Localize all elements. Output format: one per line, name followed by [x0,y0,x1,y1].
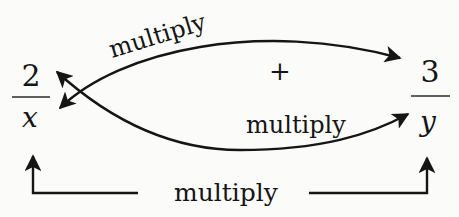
plus-operator: + [269,56,291,86]
bottom-connector-label: multiply [174,178,279,207]
left-elbow-arrow [33,156,138,193]
lower-curve-arrow [57,72,408,150]
lower-curve-label: multiply [246,111,346,139]
right-elbow-arrow [309,158,427,193]
left-denominator: x [22,101,38,134]
left-numerator: 2 [21,58,40,93]
right-denominator: y [418,105,437,138]
cross-multiply-diagram: 2 x + 3 y multiply multiply multiply [0,0,459,217]
right-numerator: 3 [420,54,439,89]
right-fraction: 3 y [411,54,450,138]
left-fraction: 2 x [12,58,50,134]
